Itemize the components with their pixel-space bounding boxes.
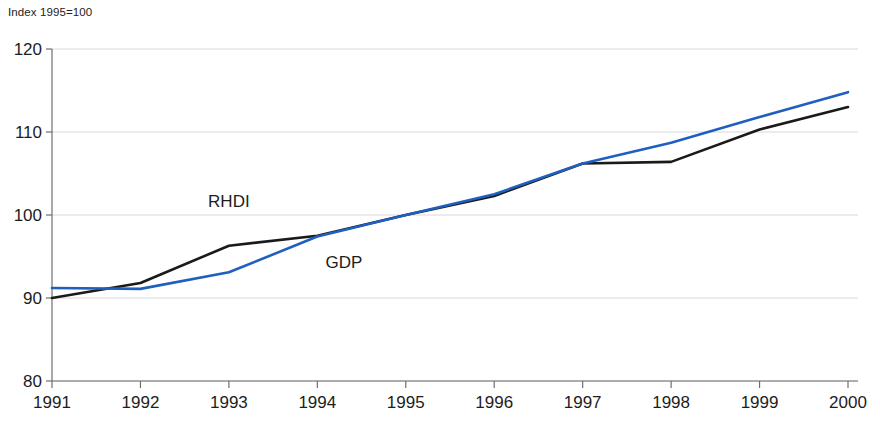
x-tick-label-1995: 1995: [387, 393, 425, 412]
x-tick-label-1993: 1993: [210, 393, 248, 412]
y-tick-label-100: 100: [14, 206, 42, 225]
x-tick-label-1994: 1994: [298, 393, 336, 412]
x-tick-label-1996: 1996: [475, 393, 513, 412]
series-line-gdp: [52, 92, 848, 289]
x-tick-label-1992: 1992: [122, 393, 160, 412]
line-chart: 8090100110120199119921993199419951996199…: [0, 0, 880, 430]
y-tick-label-110: 110: [15, 123, 42, 142]
series-line-rhdi: [52, 107, 848, 298]
x-tick-label-1999: 1999: [741, 393, 779, 412]
y-tick-label-120: 120: [14, 40, 42, 59]
x-tick-label-1998: 1998: [652, 393, 690, 412]
series-label-rhdi: RHDI: [208, 192, 250, 211]
series-label-gdp: GDP: [325, 253, 362, 272]
x-tick-label-1997: 1997: [564, 393, 602, 412]
x-tick-label-1991: 1991: [33, 393, 71, 412]
y-tick-label-80: 80: [23, 372, 42, 391]
chart-container: Index 1995=100 8090100110120199119921993…: [0, 0, 880, 430]
y-tick-label-90: 90: [23, 289, 42, 308]
x-tick-label-2000: 2000: [829, 393, 867, 412]
